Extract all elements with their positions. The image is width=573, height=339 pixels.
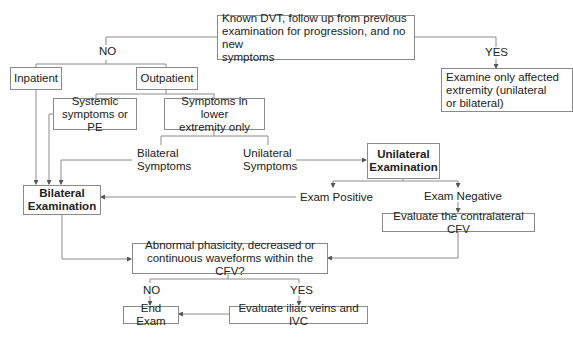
node-text-line: Examine only affected: [446, 71, 559, 84]
node-unilateral-examination: Unilateral Examination: [367, 143, 440, 179]
node-text-line: Unilateral: [377, 148, 429, 161]
node-end-exam: End Exam: [123, 306, 179, 324]
node-text: End Exam: [127, 302, 175, 328]
node-systemic: Systemic symptoms or PE: [53, 98, 137, 130]
label-unilateral-symptoms: Unilateral Symptoms: [243, 147, 297, 173]
node-text-line: extremity only: [179, 121, 250, 134]
node-text-line: symptoms: [222, 51, 274, 64]
node-text-line: Systemic: [72, 95, 119, 108]
node-text: Outpatient: [140, 72, 193, 85]
label-yes-top: YES: [485, 46, 508, 59]
node-text: Evaluate iliac veins and IVC: [233, 302, 364, 328]
node-abnormal-question: Abnormal phasicity, decreased or continu…: [132, 243, 328, 274]
node-text-line: Examination: [369, 161, 437, 174]
label-yes-bottom: YES: [290, 284, 313, 297]
label-no-top: NO: [99, 45, 116, 58]
label-line: Unilateral: [243, 147, 297, 160]
node-text-line: examination for progression, and no new: [222, 25, 411, 51]
node-known-dvt-question: Known DVT, follow up from previous exami…: [217, 15, 415, 60]
node-iliac-ivc: Evaluate iliac veins and IVC: [229, 306, 368, 324]
node-text-line: Known DVT, follow up from previous: [222, 12, 407, 25]
label-no-bottom: NO: [143, 284, 160, 297]
node-bilateral-examination: Bilateral Examination: [23, 185, 101, 215]
node-lower-extremity: Symptoms in lower extremity only: [164, 98, 265, 130]
label-line: Symptoms: [243, 160, 297, 173]
node-text: Evaluate the contralateral CFV: [386, 210, 531, 236]
node-text-line: Bilateral: [39, 187, 84, 200]
label-exam-negative: Exam Negative: [424, 190, 502, 203]
node-text: Inpatient: [14, 72, 58, 85]
node-text-line: or bilateral): [446, 97, 504, 110]
label-line: Symptoms: [137, 160, 191, 173]
label-exam-positive: Exam Positive: [300, 191, 373, 204]
node-affected-only: Examine only affected extremity (unilate…: [441, 68, 573, 112]
node-outpatient: Outpatient: [136, 67, 198, 90]
node-text-line: extremity (unilateral: [446, 84, 546, 97]
node-text-line: Symptoms in lower: [168, 95, 261, 121]
label-bilateral-symptoms: Bilateral Symptoms: [137, 147, 191, 173]
node-contralateral-cfv: Evaluate the contralateral CFV: [382, 213, 535, 232]
label-line: Bilateral: [137, 147, 191, 160]
node-text-line: continuous waveforms within the CFV?: [136, 252, 324, 278]
node-text-line: Abnormal phasicity, decreased or: [145, 239, 315, 252]
node-text-line: symptoms or PE: [57, 108, 133, 134]
node-inpatient: Inpatient: [10, 67, 62, 90]
node-text-line: Examination: [28, 200, 96, 213]
